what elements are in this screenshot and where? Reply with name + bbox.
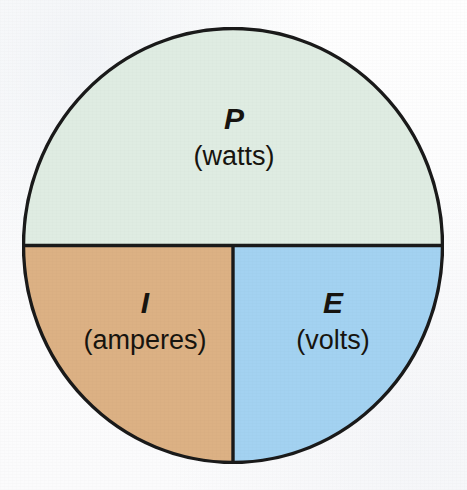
power-formula-wheel-diagram: P (watts) I (amperes) E (volts) [0, 0, 467, 490]
current-sector-fill[interactable] [24, 246, 234, 463]
power-sector-fill[interactable] [24, 29, 443, 246]
wheel-graphic [22, 27, 444, 464]
voltage-sector-fill[interactable] [233, 246, 443, 463]
